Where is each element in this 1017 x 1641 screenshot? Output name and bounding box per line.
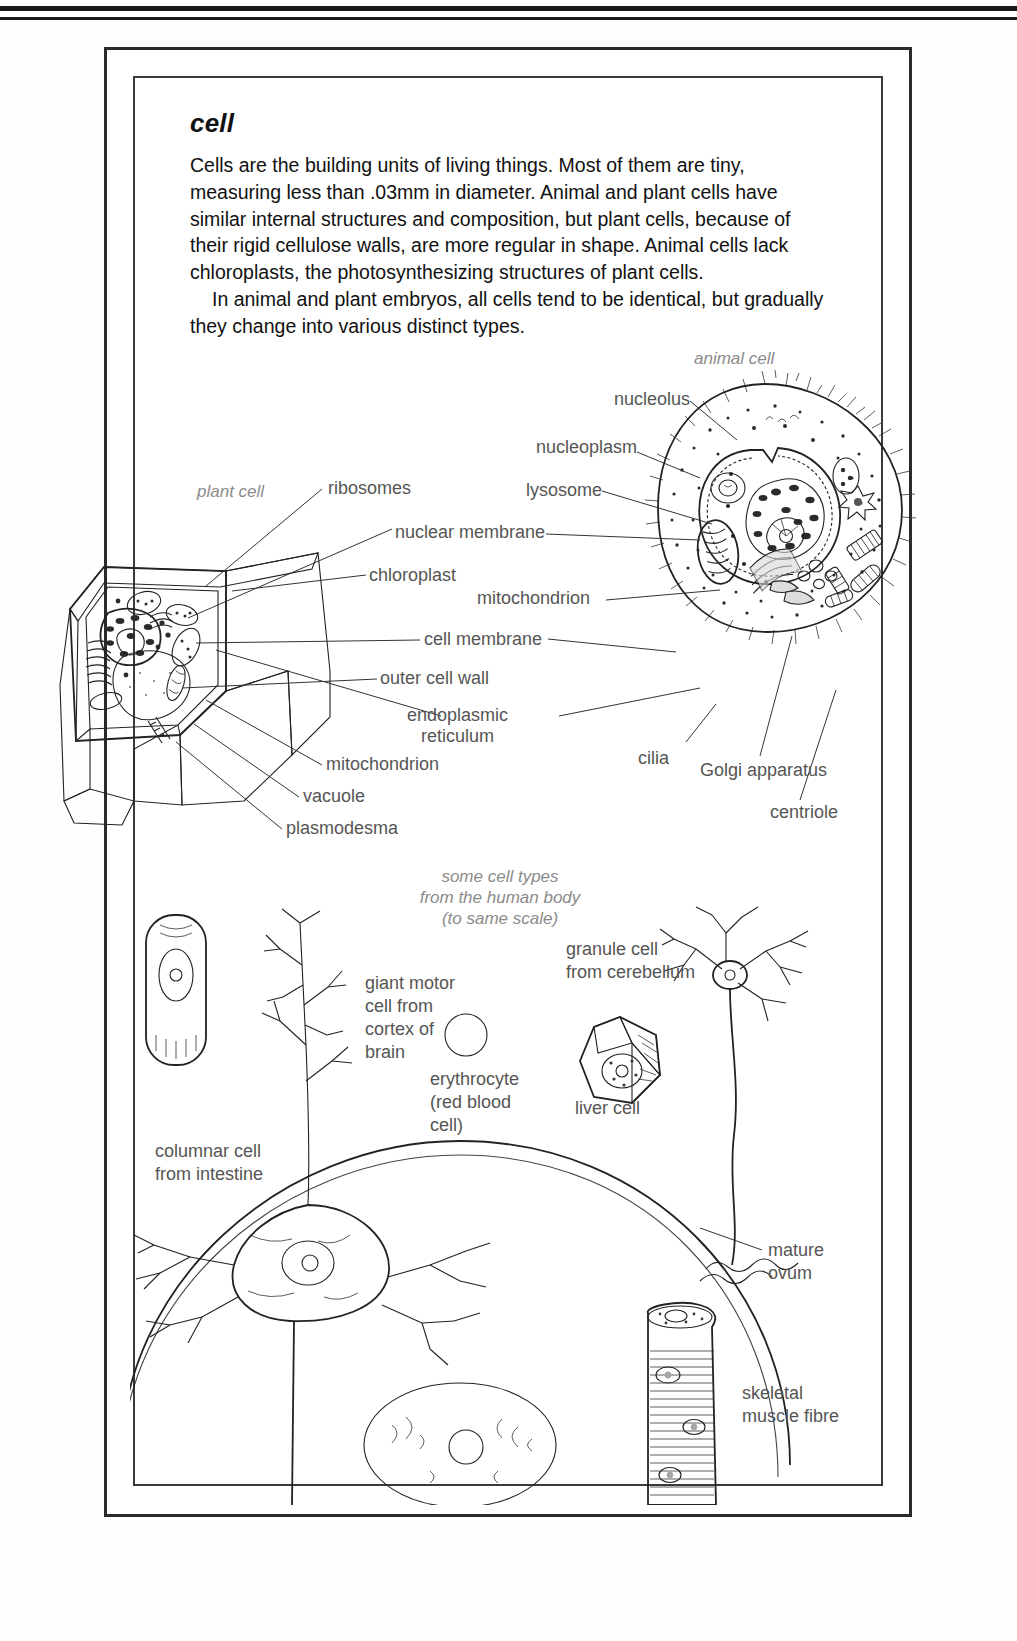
label-golgi-apparatus: Golgi apparatus	[700, 760, 827, 781]
label-centriole: centriole	[770, 802, 838, 823]
caption-animal-cell: animal cell	[694, 348, 774, 369]
label-mitochondrion-right: mitochondrion	[477, 588, 590, 609]
label-granule-cell: granule cell from cerebellum	[566, 938, 695, 984]
label-endoplasmic-reticulum-text: endoplasmic reticulum	[407, 705, 508, 746]
label-liver-cell: liver cell	[575, 1098, 640, 1119]
label-mature-ovum: mature ovum	[768, 1239, 824, 1285]
label-nucleolus: nucleolus	[560, 389, 690, 410]
label-cilia: cilia	[638, 748, 669, 769]
label-chloroplast: chloroplast	[369, 565, 456, 586]
label-nucleoplasm: nucleoplasm	[497, 437, 637, 458]
label-erythrocyte: erythrocyte (red blood cell)	[430, 1068, 550, 1137]
label-mitochondrion-left: mitochondrion	[326, 754, 439, 775]
label-ribosomes: ribosomes	[328, 478, 411, 499]
label-endoplasmic-reticulum: endoplasmic reticulum	[370, 705, 545, 747]
label-nuclear-membrane: nuclear membrane	[395, 522, 545, 543]
label-giant-motor-cell: giant motor cell from cortex of brain	[365, 972, 455, 1064]
label-vacuole: vacuole	[303, 786, 365, 807]
label-cell-membrane: cell membrane	[424, 629, 542, 650]
encyclopedia-page: cell Cells are the building units of liv…	[0, 0, 1017, 1641]
label-outer-cell-wall: outer cell wall	[380, 668, 489, 689]
label-columnar-cell: columnar cell from intestine	[155, 1140, 263, 1186]
caption-plant-cell: plant cell	[197, 481, 264, 502]
label-skeletal-muscle-fibre: skeletal muscle fibre	[742, 1382, 839, 1428]
label-plasmodesma: plasmodesma	[286, 818, 398, 839]
label-lysosome: lysosome	[482, 480, 602, 501]
